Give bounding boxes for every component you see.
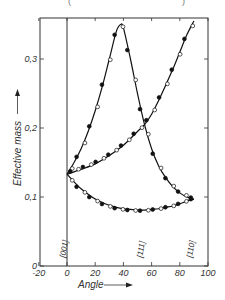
open-data-point	[127, 138, 131, 142]
open-data-point	[191, 24, 195, 28]
open-data-point	[146, 132, 150, 136]
open-data-point	[121, 207, 125, 211]
effective-mass-chart: ( ) -2002040608010000,10,20,3 [001][111]…	[0, 0, 225, 300]
filled-data-point	[87, 124, 91, 128]
filled-data-point	[144, 118, 148, 122]
x-tick-label: 60	[147, 268, 157, 278]
filled-data-point	[125, 208, 129, 212]
data-points	[68, 24, 194, 213]
plot-frame	[40, 18, 208, 266]
filled-data-point	[113, 206, 117, 210]
filled-data-point	[75, 185, 79, 189]
x-tick-label: 100	[200, 268, 215, 278]
curve-0	[67, 24, 194, 199]
filled-data-point	[119, 144, 123, 148]
filled-data-point	[87, 195, 91, 199]
x-tick-label: 80	[175, 268, 185, 278]
svg-text:Angle: Angle	[77, 279, 104, 290]
y-tick-label: 0	[32, 261, 37, 271]
filled-data-point	[151, 208, 155, 212]
filled-data-point	[170, 68, 174, 72]
filled-data-point	[75, 155, 79, 159]
filled-data-point	[94, 160, 98, 164]
open-data-point	[115, 148, 119, 152]
direction-label: [001]	[58, 238, 70, 259]
open-data-point	[140, 126, 144, 130]
open-data-point	[70, 178, 74, 182]
open-data-point	[153, 108, 157, 112]
data-curves	[67, 21, 194, 210]
x-tick-label: 20	[89, 268, 100, 278]
filled-data-point	[113, 33, 117, 37]
x-tick-label: 40	[118, 268, 128, 278]
filled-data-point	[157, 96, 161, 100]
open-data-point	[178, 52, 182, 56]
open-data-point	[159, 207, 163, 211]
open-data-point	[108, 58, 112, 62]
arrow-right-icon	[126, 283, 133, 288]
open-data-point	[134, 209, 138, 213]
open-data-point	[172, 184, 176, 188]
open-data-point	[108, 204, 112, 208]
top-caption-fragment-left: (	[68, 0, 71, 6]
curve-1	[67, 21, 194, 174]
filled-data-point	[151, 152, 155, 156]
open-data-point	[83, 190, 87, 194]
open-data-point	[166, 82, 170, 86]
svg-text:[111]: [111]	[135, 240, 147, 260]
open-data-point	[185, 199, 189, 203]
svg-text:Effective mass: Effective mass	[12, 121, 23, 186]
filled-data-point	[138, 107, 142, 111]
filled-data-point	[176, 190, 180, 194]
open-data-point	[77, 167, 81, 171]
filled-data-point	[183, 37, 187, 41]
arrow-up-icon	[15, 89, 20, 96]
open-data-point	[172, 204, 176, 208]
x-axis-title: Angle	[77, 279, 133, 290]
y-tick-label: 0,3	[24, 54, 37, 64]
filled-data-point	[100, 202, 104, 206]
open-data-point	[102, 156, 106, 160]
y-axis-title: Effective mass	[12, 89, 23, 186]
filled-data-point	[106, 153, 110, 157]
x-tick-label: 0	[64, 268, 69, 278]
filled-data-point	[189, 197, 193, 201]
direction-labels: [001][111][110]	[58, 238, 197, 259]
open-data-point	[159, 166, 163, 170]
svg-text:[001]: [001]	[58, 238, 70, 259]
filled-data-point	[164, 205, 168, 209]
direction-label: [110]	[185, 239, 197, 259]
open-data-point	[134, 78, 138, 82]
top-caption-fragment-right: )	[182, 0, 185, 6]
direction-label: [111]	[135, 240, 147, 260]
svg-text:[110]: [110]	[185, 239, 197, 259]
open-data-point	[89, 163, 93, 167]
open-data-point	[83, 141, 87, 145]
open-data-point	[96, 199, 100, 203]
open-data-point	[185, 193, 189, 197]
open-data-point	[96, 105, 100, 109]
y-tick-label: 0,2	[24, 123, 37, 133]
filled-data-point	[176, 202, 180, 206]
filled-data-point	[125, 48, 129, 52]
filled-data-point	[132, 132, 136, 136]
open-data-point	[146, 208, 150, 212]
open-data-point	[121, 25, 125, 29]
filled-data-point	[138, 209, 142, 213]
y-tick-label: 0,1	[24, 192, 37, 202]
filled-data-point	[100, 83, 104, 87]
filled-data-point	[81, 165, 85, 169]
filled-data-point	[68, 169, 72, 173]
filled-data-point	[164, 176, 168, 180]
